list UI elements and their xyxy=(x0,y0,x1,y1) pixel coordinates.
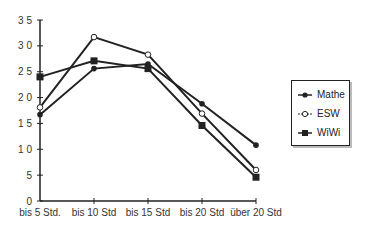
y-tick-label: 5 xyxy=(26,170,32,181)
x-tick-label: bis 10 Std xyxy=(72,207,116,218)
legend-label: ESW xyxy=(317,108,340,119)
legend-item-wiwi: WiWi xyxy=(298,127,340,138)
legend-marker-filled-square-icon xyxy=(298,128,312,138)
x-tick-label: bis 15 Std xyxy=(126,207,170,218)
data-point xyxy=(91,57,98,64)
data-point xyxy=(253,167,259,173)
data-point xyxy=(253,142,259,148)
y-tick-label: 0 xyxy=(26,196,32,207)
legend-label: Mathe xyxy=(317,89,345,100)
legend-marker-filled-circle-icon xyxy=(298,90,312,100)
legend-label: WiWi xyxy=(317,127,340,138)
series-mathe xyxy=(37,61,259,148)
x-tick-label: bis 20 Std xyxy=(180,207,224,218)
data-point xyxy=(145,65,152,72)
y-tick-label: 1 5 xyxy=(18,118,32,129)
series-wiwi xyxy=(37,57,260,180)
y-tick-label: 2 5 xyxy=(18,66,32,77)
x-tick-label: über 20 Std xyxy=(230,207,282,218)
data-point xyxy=(91,34,97,40)
x-tick-label: bis 5 Std. xyxy=(19,207,61,218)
data-point xyxy=(91,66,97,72)
data-point xyxy=(199,111,205,117)
legend: Mathe ESW WiWi xyxy=(291,80,350,146)
y-tick-label: 2 0 xyxy=(18,92,32,103)
legend-item-mathe: Mathe xyxy=(298,89,345,100)
series-esw xyxy=(37,34,259,173)
y-tick-label: 1 0 xyxy=(18,144,32,155)
legend-item-esw: ESW xyxy=(298,108,340,119)
data-point xyxy=(199,101,205,107)
axes: 051 01 52 02 53 03 5bis 5 Std.bis 10 Std… xyxy=(18,15,282,219)
series-layer xyxy=(37,34,260,180)
data-point xyxy=(199,122,206,129)
series-line xyxy=(40,61,256,177)
y-tick-label: 3 0 xyxy=(18,40,32,51)
data-point xyxy=(37,73,44,80)
y-tick-label: 3 5 xyxy=(18,15,32,26)
data-point xyxy=(253,174,260,181)
data-point xyxy=(37,105,43,111)
legend-marker-open-circle-icon xyxy=(298,109,312,119)
series-line xyxy=(40,64,256,145)
data-point xyxy=(145,52,151,58)
data-point xyxy=(37,112,43,118)
